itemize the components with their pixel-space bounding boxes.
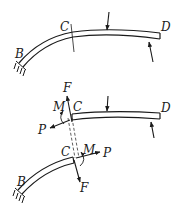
- upper-downward-load-arrow: [107, 96, 108, 111]
- label-B-lower: B: [17, 176, 26, 188]
- label-P-lower: P: [103, 147, 111, 159]
- upward-load-arrow: [149, 42, 153, 62]
- label-D-top: D: [161, 21, 171, 33]
- force-P-left-arrow: [50, 120, 70, 128]
- dashed-line-2: [72, 118, 79, 158]
- section-cut-line: [71, 24, 74, 52]
- fixed-support-lower-icon: [13, 188, 25, 203]
- label-F-upper: F: [63, 82, 71, 94]
- beam-diagram: [0, 0, 185, 213]
- label-D-upper: D: [161, 102, 171, 114]
- force-F-down-arrow: [74, 160, 80, 182]
- label-P-upper: P: [38, 124, 46, 136]
- upper-segment-beam: [72, 112, 160, 120]
- lower-segment-beam: [18, 157, 74, 194]
- top-beam: [19, 30, 160, 67]
- label-C-top: C: [60, 21, 69, 33]
- label-M-lower: M: [83, 144, 95, 156]
- label-C-upper: C: [73, 101, 82, 113]
- downward-load-arrow: [107, 12, 109, 30]
- upper-upward-load-arrow: [151, 122, 154, 138]
- label-M-upper: M: [53, 101, 65, 113]
- label-F-lower: F: [80, 182, 88, 194]
- label-B-top: B: [15, 48, 24, 60]
- fixed-support-icon: [14, 61, 26, 76]
- label-C-lower: C: [61, 146, 70, 158]
